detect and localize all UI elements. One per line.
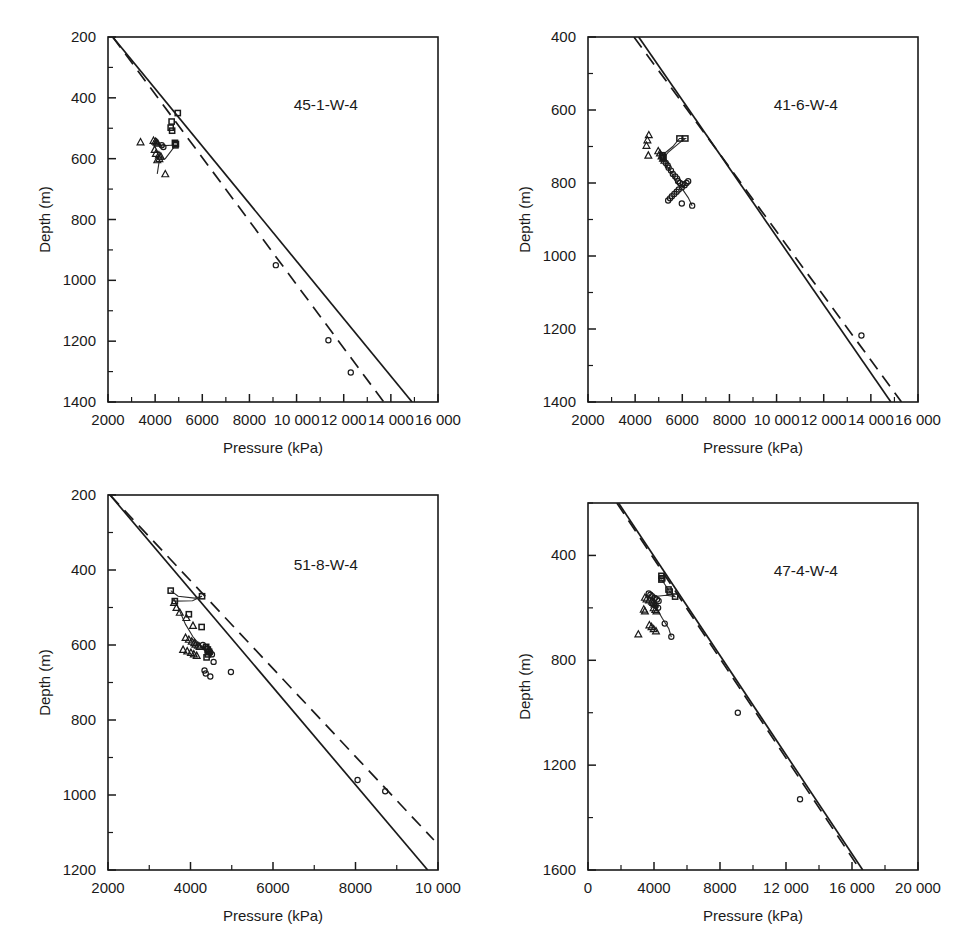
data-point xyxy=(211,659,216,664)
x-tick-label: 4000 xyxy=(637,879,670,896)
solid-reference-line xyxy=(113,37,412,402)
x-tick-label: 6000 xyxy=(186,411,219,428)
y-tick-label: 1600 xyxy=(543,861,576,878)
data-point xyxy=(355,777,360,782)
y-tick-label: 800 xyxy=(71,711,96,728)
y-tick-label: 800 xyxy=(551,651,576,668)
data-point xyxy=(645,152,652,158)
data-point xyxy=(169,119,174,124)
data-point xyxy=(679,201,684,206)
x-tick-label: 6000 xyxy=(666,411,699,428)
x-tick-label: 16 000 xyxy=(895,411,941,428)
x-tick-label: 4000 xyxy=(618,411,651,428)
triangle-series xyxy=(643,131,668,163)
x-tick-label: 4000 xyxy=(174,879,207,896)
data-point xyxy=(859,333,864,338)
y-axis-title: Depth (m) xyxy=(516,186,533,253)
y-axis-title: Depth (m) xyxy=(36,649,53,716)
y-tick-label: 400 xyxy=(551,546,576,563)
x-tick-label: 8000 xyxy=(339,879,372,896)
x-tick-label: 14 000 xyxy=(848,411,894,428)
x-axis-title: Pressure (kPa) xyxy=(703,907,803,924)
square-series xyxy=(168,110,180,147)
y-tick-label: 1000 xyxy=(63,271,96,288)
data-point xyxy=(635,631,642,637)
x-tick-label: 20 000 xyxy=(895,879,941,896)
x-axis-title: Pressure (kPa) xyxy=(223,439,323,456)
panel-51-8-W-4: 200040006000800010 000200400600800100012… xyxy=(0,478,490,948)
dashed-reference-line xyxy=(113,37,384,402)
data-point xyxy=(326,338,331,343)
data-point xyxy=(199,624,204,629)
solid-reference-line xyxy=(639,37,891,402)
circle-series xyxy=(200,642,388,793)
y-tick-label: 1200 xyxy=(543,320,576,337)
x-tick-label: 8000 xyxy=(713,411,746,428)
data-point xyxy=(797,797,802,802)
panel-45-1-W-4: 200040006000800010 00012 00014 00016 000… xyxy=(0,8,490,478)
y-tick-label: 600 xyxy=(551,101,576,118)
dashed-reference-line xyxy=(617,503,860,870)
x-axis-title: Pressure (kPa) xyxy=(223,907,323,924)
x-tick-label: 10 000 xyxy=(415,879,461,896)
x-tick-label: 2000 xyxy=(91,411,124,428)
data-point xyxy=(273,263,278,268)
y-tick-label: 400 xyxy=(551,28,576,45)
panel-title: 51-8-W-4 xyxy=(294,556,359,573)
circle-series xyxy=(159,143,353,375)
y-tick-label: 1000 xyxy=(63,786,96,803)
data-point xyxy=(162,170,169,176)
x-tick-label: 6000 xyxy=(256,879,289,896)
connector-polyline xyxy=(662,138,692,205)
y-axis-title: Depth (m) xyxy=(516,653,533,720)
y-tick-label: 1400 xyxy=(63,393,96,410)
x-axis-title: Pressure (kPa) xyxy=(703,439,803,456)
panel-41-6-W-4: 200040006000800010 00012 00014 00016 000… xyxy=(480,8,967,478)
plot-frame xyxy=(588,503,918,870)
panel-title: 41-6-W-4 xyxy=(774,96,839,113)
data-point xyxy=(137,139,144,145)
solid-reference-line xyxy=(110,495,428,870)
x-tick-label: 4000 xyxy=(138,411,171,428)
x-tick-label: 16 000 xyxy=(415,411,461,428)
y-tick-label: 400 xyxy=(71,89,96,106)
x-tick-label: 10 000 xyxy=(274,411,320,428)
x-tick-label: 12 000 xyxy=(321,411,367,428)
solid-reference-line xyxy=(619,503,863,870)
x-tick-label: 14 000 xyxy=(368,411,414,428)
y-tick-label: 800 xyxy=(71,211,96,228)
data-point xyxy=(190,622,197,628)
y-tick-label: 600 xyxy=(71,636,96,653)
y-tick-label: 1400 xyxy=(543,393,576,410)
y-tick-label: 400 xyxy=(71,561,96,578)
x-tick-label: 0 xyxy=(584,879,592,896)
dashed-reference-line xyxy=(634,37,902,402)
x-tick-label: 10 000 xyxy=(754,411,800,428)
x-tick-label: 16 000 xyxy=(829,879,875,896)
y-tick-label: 1200 xyxy=(63,332,96,349)
y-axis-title: Depth (m) xyxy=(36,186,53,253)
circle-series xyxy=(646,591,803,802)
panel-title: 45-1-W-4 xyxy=(294,96,359,113)
x-tick-label: 12 000 xyxy=(801,411,847,428)
circle-series xyxy=(663,160,864,338)
figure-root: 200040006000800010 00012 00014 00016 000… xyxy=(0,0,967,948)
y-tick-label: 1000 xyxy=(543,247,576,264)
data-point xyxy=(645,131,652,137)
x-tick-label: 12 000 xyxy=(763,879,809,896)
panel-47-4-W-4: 04000800012 00016 00020 0004008001200160… xyxy=(480,478,967,948)
data-point xyxy=(735,710,740,715)
x-tick-label: 8000 xyxy=(703,879,736,896)
x-tick-label: 2000 xyxy=(91,879,124,896)
y-tick-label: 600 xyxy=(71,150,96,167)
data-point xyxy=(348,370,353,375)
y-tick-label: 1200 xyxy=(63,861,96,878)
panel-title: 47-4-W-4 xyxy=(774,562,839,579)
x-tick-label: 2000 xyxy=(571,411,604,428)
plot-frame xyxy=(588,37,918,402)
y-tick-label: 800 xyxy=(551,174,576,191)
y-tick-label: 200 xyxy=(71,486,96,503)
square-series xyxy=(168,588,212,660)
triangle-series xyxy=(171,599,203,658)
data-point xyxy=(208,674,213,679)
